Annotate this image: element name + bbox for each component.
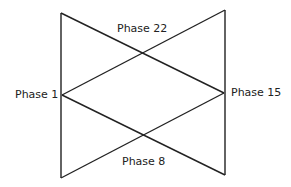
label-phase-22: Phase 22: [117, 23, 167, 35]
label-phase-15: Phase 15: [231, 87, 281, 99]
label-phase-1: Phase 1: [15, 89, 58, 101]
label-phase-8: Phase 8: [122, 156, 165, 168]
